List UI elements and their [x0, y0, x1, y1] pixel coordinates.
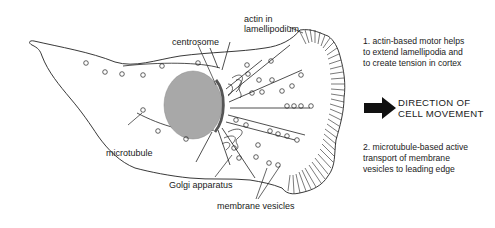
- note-microtubule-transport: 2. microtubule-based active transport of…: [363, 142, 468, 175]
- label-centrosome: centrosome: [172, 37, 219, 47]
- label-microtubule: microtubule: [106, 148, 153, 158]
- golgi-apparatus: [222, 75, 242, 150]
- note-actin-motor: 1. actin-based motor helps to extend lam…: [363, 36, 464, 69]
- actin-lamellipodium: [288, 29, 344, 193]
- label-direction-of-cell-movement: DIRECTION OF CELL MOVEMENT: [398, 97, 484, 119]
- label-actin-in-lamellipodium: actin in lamellipodium: [244, 14, 299, 34]
- nucleus: [164, 71, 222, 139]
- direction-arrow-icon: [364, 97, 396, 119]
- label-golgi-apparatus: Golgi apparatus: [169, 180, 233, 190]
- label-membrane-vesicles: membrane vesicles: [217, 201, 295, 211]
